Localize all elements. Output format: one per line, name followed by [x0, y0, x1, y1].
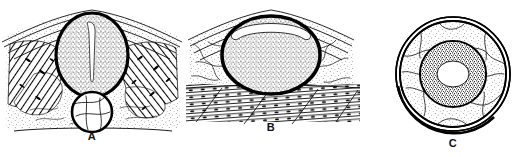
panel-label-c: C [443, 138, 463, 149]
figure-illustration [0, 0, 521, 157]
figure-container: A B C [0, 0, 521, 157]
panel-label-a: A [82, 131, 102, 142]
panel-c [396, 17, 510, 133]
panel-a [2, 10, 182, 132]
panel-a-small-structure [72, 92, 112, 132]
panel-label-b: B [261, 122, 281, 133]
panel-b-central-organ [222, 16, 320, 94]
panel-c-central-lumen [437, 61, 469, 87]
